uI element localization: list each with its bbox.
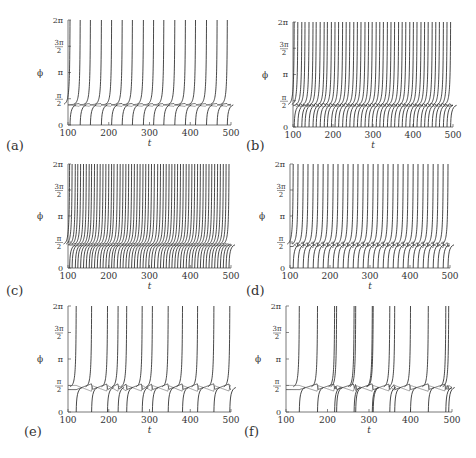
phase-slip-upper (192, 306, 198, 387)
phase-slip-upper (162, 306, 168, 387)
phase-slip-lower (168, 388, 174, 413)
phase-slip-upper (106, 20, 112, 104)
x-tick-label: 400 (401, 271, 418, 281)
y-tick-label: π (57, 235, 62, 243)
phase-slip-lower (428, 388, 434, 413)
y-tick-label: 2 (275, 386, 279, 394)
plot-d: 100200300400500t0π2π3π22πϕ (240, 150, 476, 300)
y-tick-label: 3π (272, 325, 281, 333)
y-tick-label: π (276, 355, 281, 364)
phase-slip-lower (142, 388, 148, 413)
phase-slip-lower (339, 105, 345, 127)
y-tick-label: 0 (276, 408, 281, 417)
x-tick-label: 200 (100, 128, 117, 138)
phase-slip-upper (158, 20, 164, 104)
phase-slip-lower (207, 105, 213, 125)
phase-slip-lower (80, 105, 86, 125)
phase-slip-lower (410, 105, 416, 127)
x-tick-label: 300 (141, 128, 158, 138)
x-tick-label: 200 (319, 415, 336, 425)
phase-slip-lower (316, 105, 322, 127)
x-tick-label: 200 (100, 271, 117, 281)
phase-slip-lower (198, 388, 204, 413)
phase-slip-lower (391, 105, 397, 127)
y-tick-label: 2 (57, 386, 61, 394)
phase-slip-lower (122, 105, 128, 125)
phase-slip-lower (451, 105, 457, 127)
phase-slip-upper (64, 164, 70, 244)
phase-slip-lower (101, 105, 107, 125)
y-axis-label: ϕ (262, 70, 268, 80)
phase-slip-lower (365, 105, 371, 127)
y-tick-label: 0 (283, 123, 288, 132)
phase-slip-upper (329, 306, 335, 387)
x-tick-label: 300 (361, 271, 378, 281)
phase-slip-lower (214, 388, 220, 413)
y-tick-label: 2 (275, 333, 279, 341)
y-tick-label: π (280, 212, 285, 221)
y-tick-label: 2π (275, 160, 285, 169)
phase-slip-upper (211, 20, 217, 104)
x-tick-label: 200 (324, 130, 341, 140)
phase-slip-lower (449, 388, 455, 413)
phase-slip-upper (169, 20, 175, 104)
phase-slip-upper (84, 20, 90, 104)
x-tick-label: 400 (182, 128, 199, 138)
phase-slip-lower (402, 105, 408, 127)
x-tick-label: 300 (141, 271, 158, 281)
phase-slip-lower (436, 105, 442, 127)
y-tick-label: π (282, 94, 287, 102)
plot-a: 100200300400500t0π2π3π22πϕ (0, 0, 240, 155)
phase-slip-lower (127, 388, 133, 413)
phase-slip-lower (152, 388, 158, 413)
x-tick-label: 400 (402, 415, 419, 425)
y-tick-label: 2π (278, 18, 288, 27)
phase-slip-lower (230, 388, 236, 413)
x-tick-label: 400 (182, 415, 199, 425)
y-axis-label: ϕ (37, 211, 43, 221)
phase-slip-lower (421, 105, 427, 127)
y-tick-label: 2 (282, 102, 286, 110)
y-axis-label: ϕ (259, 211, 265, 221)
phase-slip-lower (380, 105, 386, 127)
phase-slip-lower (227, 105, 233, 125)
x-axis-label: t (371, 140, 375, 150)
x-tick-label: 500 (441, 271, 458, 281)
phase-slip-upper (137, 20, 143, 104)
phase-slip-lower (428, 105, 434, 127)
phase-slip-lower (395, 105, 401, 127)
phase-slip-lower (327, 105, 333, 127)
y-tick-label: π (57, 378, 62, 386)
phase-slip-lower (411, 388, 417, 413)
y-tick-label: π (58, 355, 63, 364)
phase-slip-lower (372, 105, 378, 127)
phase-slip-lower (406, 105, 412, 127)
phase-slip-lower (373, 388, 379, 413)
x-tick-label: 400 (404, 130, 421, 140)
phase-slip-upper (208, 306, 214, 387)
y-tick-label: 0 (58, 121, 63, 130)
phase-slip-upper (177, 306, 183, 387)
phase-slip-lower (298, 105, 304, 127)
phase-slip-upper (95, 20, 101, 104)
phase-slip-lower (294, 105, 300, 127)
phase-slip-upper (136, 306, 142, 387)
y-tick-label: 2 (282, 49, 286, 57)
y-tick-label: 2π (53, 302, 63, 311)
phase-slip-upper (440, 306, 446, 387)
y-tick-label: π (58, 68, 63, 77)
phase-slip-upper (112, 306, 118, 387)
phase-slip-lower (143, 105, 149, 125)
phase-slip-upper (422, 306, 428, 387)
phase-slip-upper (121, 306, 127, 387)
phase-slip-upper (384, 306, 390, 387)
phase-slip-lower (90, 105, 96, 125)
y-tick-label: 2 (57, 333, 61, 341)
panel-c: 100200300400500t0π2π3π22πϕ (c) (0, 150, 240, 300)
phase-slip-lower (448, 245, 454, 268)
y-tick-label: 3π (279, 41, 288, 49)
phase-slip-lower (354, 105, 360, 127)
phase-slip-upper (148, 20, 154, 104)
x-tick-label: 500 (222, 271, 239, 281)
phase-slip-lower (309, 105, 315, 127)
